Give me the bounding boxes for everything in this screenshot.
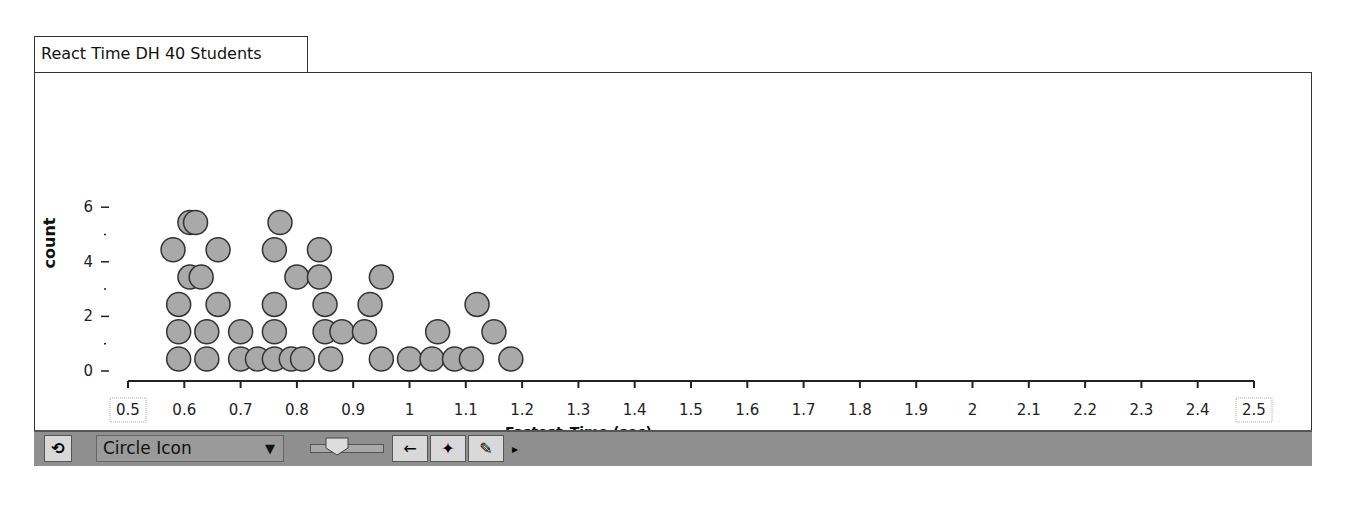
y-tick-label: 2 <box>83 307 93 325</box>
data-point[interactable] <box>307 238 331 262</box>
data-point[interactable] <box>358 292 382 316</box>
data-point[interactable] <box>291 347 315 371</box>
x-tick-label: 2.1 <box>1017 401 1041 419</box>
crosshair-icon[interactable]: ✦ <box>430 435 466 462</box>
data-point[interactable] <box>189 265 213 289</box>
data-point[interactable] <box>499 347 523 371</box>
x-tick-label: 1.9 <box>904 401 928 419</box>
slider-thumb[interactable] <box>324 436 350 456</box>
icon-style-value: Circle Icon <box>103 438 192 458</box>
data-point[interactable] <box>262 238 286 262</box>
data-point[interactable] <box>426 320 450 344</box>
y-tick-label: 6 <box>83 198 93 216</box>
data-point[interactable] <box>369 347 393 371</box>
data-point[interactable] <box>167 347 191 371</box>
x-tick-label: 2.4 <box>1186 401 1210 419</box>
data-point[interactable] <box>167 320 191 344</box>
back-arrow-icon[interactable]: ← <box>392 435 428 462</box>
x-tick-label: 1.3 <box>566 401 590 419</box>
data-point[interactable] <box>307 265 331 289</box>
data-point[interactable] <box>206 292 230 316</box>
x-tick-label: 1.1 <box>454 401 478 419</box>
data-point[interactable] <box>262 292 286 316</box>
data-point[interactable] <box>206 238 230 262</box>
x-tick-label: 2.5 <box>1242 401 1266 419</box>
data-point[interactable] <box>398 347 422 371</box>
plot-frame: 0.50.60.70.80.911.11.21.31.41.51.61.71.8… <box>34 72 1312 466</box>
x-tick-label: 1.5 <box>679 401 703 419</box>
data-point[interactable] <box>330 320 354 344</box>
x-tick-label: 1.2 <box>510 401 534 419</box>
data-point[interactable] <box>352 320 376 344</box>
data-point[interactable] <box>465 292 489 316</box>
window-title: React Time DH 40 Students <box>34 36 308 72</box>
x-tick-label: 0.5 <box>116 401 140 419</box>
x-tick-label: 1.4 <box>623 401 647 419</box>
data-point[interactable] <box>369 265 393 289</box>
x-tick-label: 2.3 <box>1129 401 1153 419</box>
data-point[interactable] <box>482 320 506 344</box>
x-tick-label: 1.7 <box>792 401 816 419</box>
data-point[interactable] <box>229 320 253 344</box>
x-tick-label: 1.8 <box>848 401 872 419</box>
data-point[interactable] <box>285 265 309 289</box>
data-point[interactable] <box>262 320 286 344</box>
data-point[interactable] <box>195 320 219 344</box>
data-point[interactable] <box>184 211 208 235</box>
x-tick-label: 2 <box>968 401 978 419</box>
y-tick-label: 0 <box>83 362 93 380</box>
x-tick-label: 0.7 <box>229 401 253 419</box>
x-tick-label: 2.2 <box>1073 401 1097 419</box>
data-point[interactable] <box>161 238 185 262</box>
data-point[interactable] <box>195 347 219 371</box>
dot-plot[interactable]: 0.50.60.70.80.911.11.21.31.41.51.61.71.8… <box>35 73 1313 433</box>
toolbar: ⟲ Circle Icon ▼ ← ✦ ✎ ▸ <box>34 430 1312 466</box>
data-point[interactable] <box>313 292 337 316</box>
data-point[interactable] <box>319 347 343 371</box>
y-axis-label: count <box>40 217 59 268</box>
data-point[interactable] <box>167 292 191 316</box>
x-tick-label: 1.6 <box>735 401 759 419</box>
x-tick-label: 1 <box>405 401 415 419</box>
data-point[interactable] <box>268 211 292 235</box>
icon-style-dropdown[interactable]: Circle Icon ▼ <box>96 435 284 462</box>
pencil-icon[interactable]: ✎ <box>468 435 504 462</box>
x-tick-label: 0.9 <box>341 401 365 419</box>
data-point[interactable] <box>420 347 444 371</box>
chevron-down-icon: ▼ <box>265 436 275 461</box>
x-tick-label: 0.8 <box>285 401 309 419</box>
y-tick-label: 4 <box>83 253 93 271</box>
rotate-arrows-icon[interactable]: ⟲ <box>44 435 72 462</box>
more-triangle-icon[interactable]: ▸ <box>512 442 518 456</box>
data-point[interactable] <box>459 347 483 371</box>
x-tick-label: 0.6 <box>172 401 196 419</box>
